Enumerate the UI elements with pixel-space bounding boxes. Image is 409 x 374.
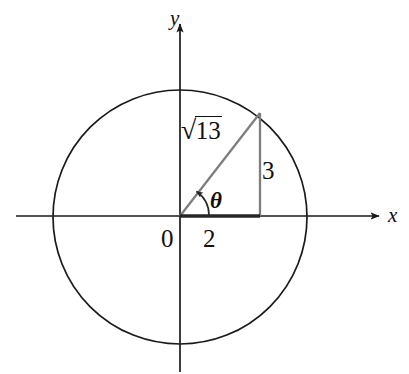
opposite-side-label: 3 [262, 158, 275, 183]
radical-sign-icon: √ [181, 117, 197, 144]
hypotenuse-length-label: √13 [181, 116, 222, 144]
figure-canvas: y x √13 3 2 0 θ [0, 0, 409, 374]
radical-expression: √13 [181, 116, 222, 144]
radicand-value: 13 [195, 116, 222, 143]
origin-label: 0 [161, 226, 174, 251]
geometry-diagram [0, 0, 409, 374]
adjacent-side-label: 2 [203, 226, 216, 251]
x-axis-label: x [388, 205, 397, 226]
y-axis-label: y [170, 8, 179, 29]
theta-angle-label: θ [210, 189, 222, 212]
angle-arc [197, 192, 210, 216]
